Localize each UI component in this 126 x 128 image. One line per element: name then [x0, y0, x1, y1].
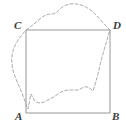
vertex-label-B: B: [112, 111, 119, 122]
vertex-label-A: A: [15, 111, 22, 122]
square-ABCD: [26, 30, 110, 113]
vertex-label-D: D: [113, 20, 121, 31]
dashed-region-outline-path: [12, 4, 110, 109]
geometry-figure-canvas: C D A B: [0, 0, 126, 128]
vertex-label-C: C: [14, 20, 21, 31]
